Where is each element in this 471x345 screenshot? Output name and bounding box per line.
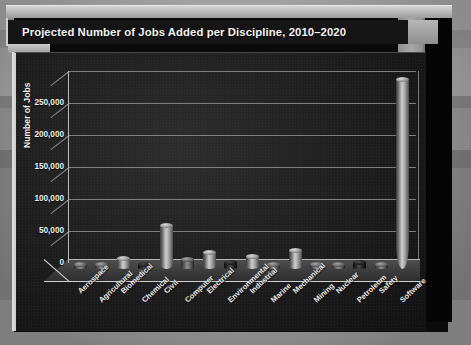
chart-floor-front-edge: [44, 281, 420, 282]
y-axis-title: Number of Jobs: [22, 83, 32, 148]
gridline: [68, 231, 416, 232]
gridline: [68, 135, 416, 136]
gridline: [68, 103, 416, 104]
x-axis-label: Marine: [269, 281, 293, 304]
bar-cap: [224, 260, 237, 265]
bar[interactable]: [181, 257, 194, 269]
bar-cap: [117, 256, 130, 261]
bar-cap: [203, 250, 216, 255]
bar-body: [289, 251, 302, 269]
bar[interactable]: [332, 262, 345, 269]
bar[interactable]: [289, 248, 302, 269]
title-bevel: [6, 18, 8, 46]
y-axis-tick-label: 0: [59, 258, 64, 267]
y-axis-tick-label: 250,000: [34, 98, 64, 107]
page-title: Projected Number of Jobs Added per Disci…: [8, 26, 346, 38]
gridline: [68, 71, 416, 72]
bar-cap: [375, 262, 388, 267]
bar[interactable]: [353, 260, 366, 269]
bar[interactable]: [375, 262, 388, 269]
y-axis-line: [68, 71, 69, 263]
bar[interactable]: [396, 77, 409, 269]
bar[interactable]: [246, 254, 259, 269]
bar-cap: [332, 262, 345, 267]
y-axis-tick-label: 200,000: [34, 130, 64, 139]
title-tab: [408, 20, 438, 44]
bar[interactable]: [203, 250, 216, 269]
y-axis-tick-label: 100,000: [34, 194, 64, 203]
chart-area[interactable]: 050,000100,000150,000200,000250,000 Numb…: [14, 52, 426, 331]
bar[interactable]: [160, 223, 173, 269]
bar[interactable]: [74, 262, 87, 269]
box-top-face: [6, 6, 452, 18]
bar[interactable]: [117, 255, 130, 268]
plot-region: 050,000100,000150,000200,000250,000 Numb…: [16, 53, 426, 331]
bar-body: [396, 80, 409, 269]
back-wall-edge: [418, 71, 419, 263]
gridline: [68, 167, 416, 168]
y-axis-tick-label: 50,000: [39, 226, 64, 235]
box-right-face: [424, 6, 452, 322]
gridline: [68, 199, 416, 200]
chart-floor-diagonal: [44, 259, 70, 282]
x-axis-label: Mining: [312, 281, 336, 304]
bar-cap: [289, 248, 302, 253]
gridline-riser: [51, 71, 70, 86]
chart-title-bar: Projected Number of Jobs Added per Disci…: [8, 20, 408, 44]
y-axis-tick-label: 150,000: [34, 162, 64, 171]
bar-cap: [74, 262, 87, 267]
bar-body: [160, 226, 173, 269]
